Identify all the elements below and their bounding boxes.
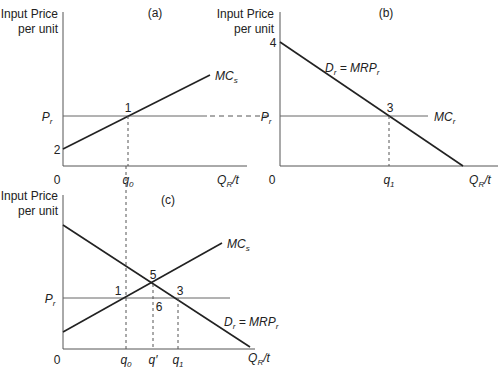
panel-c-point-1: 1 bbox=[115, 284, 122, 298]
panel-a: Input Price per unit (a) 0 Pr MCs 2 1 q0… bbox=[1, 6, 273, 189]
panel-c-origin: 0 bbox=[54, 353, 61, 367]
panel-b-title: (b) bbox=[379, 6, 394, 20]
panel-c-ylabel-line2: per unit bbox=[18, 204, 59, 218]
panel-a-ylabel-line2: per unit bbox=[18, 22, 59, 36]
panel-c-point-6: 6 bbox=[156, 300, 163, 314]
panel-a-q0-label: q0 bbox=[122, 173, 134, 189]
panel-b: Input Price per unit (b) 0 4 Pr MCr Dr =… bbox=[217, 6, 498, 189]
panel-b-price-label: Pr bbox=[261, 110, 272, 126]
panel-a-origin: 0 bbox=[54, 173, 61, 187]
panel-c-point-5: 5 bbox=[150, 268, 157, 282]
panel-c: Input Price per unit (c) 0 Pr Dr = MRPr … bbox=[1, 166, 279, 369]
panel-b-xlabel: QR/t bbox=[469, 173, 491, 189]
panel-c-ylabel-line1: Input Price bbox=[1, 189, 59, 203]
panel-a-point-1: 1 bbox=[125, 101, 132, 115]
panel-b-point-3: 3 bbox=[387, 101, 394, 115]
panel-c-demand-label: Dr = MRPr bbox=[224, 315, 279, 331]
panel-c-mcs-curve bbox=[63, 243, 222, 332]
panel-a-title: (a) bbox=[148, 6, 163, 20]
panel-a-mcs-label: MCs bbox=[215, 69, 238, 85]
factor-market-diagram: Input Price per unit (a) 0 Pr MCs 2 1 q0… bbox=[0, 0, 499, 373]
panel-c-xlabel: QR/t bbox=[248, 351, 270, 367]
panel-a-xlabel: QR/t bbox=[217, 173, 239, 189]
panel-b-q1-label: q1 bbox=[383, 173, 394, 189]
panel-b-demand-label: Dr = MRPr bbox=[325, 61, 380, 77]
panel-c-qprime-label: q′ bbox=[149, 353, 159, 367]
panel-a-ylabel-line1: Input Price bbox=[1, 7, 59, 21]
panel-c-mcs-label: MCs bbox=[227, 237, 250, 253]
panel-b-origin: 0 bbox=[269, 173, 276, 187]
panel-c-q1-label: q1 bbox=[172, 353, 183, 369]
panel-b-ylabel-line2: per unit bbox=[234, 22, 275, 36]
panel-c-point-3: 3 bbox=[177, 284, 184, 298]
panel-a-intercept: 2 bbox=[54, 143, 61, 157]
panel-a-price-label: Pr bbox=[42, 110, 53, 126]
panel-c-title: (c) bbox=[161, 193, 175, 207]
panel-b-mcr-label: MCr bbox=[434, 110, 456, 126]
panel-b-intercept: 4 bbox=[270, 36, 277, 50]
panel-b-ylabel-line1: Input Price bbox=[217, 7, 275, 21]
panel-a-mcs-curve bbox=[63, 75, 210, 149]
panel-c-q0-label: q0 bbox=[120, 353, 132, 369]
panel-c-price-label: Pr bbox=[45, 292, 56, 308]
